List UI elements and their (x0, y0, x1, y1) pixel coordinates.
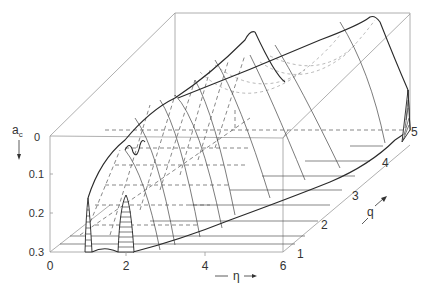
y-axis: 1 2 3 4 5 q (297, 125, 418, 261)
x-tick-4: 4 (202, 259, 209, 273)
z-tick-0.3: 0.3 (29, 246, 44, 258)
z-axis-arrow-icon (17, 154, 21, 160)
z-axis-label: ac (12, 123, 23, 139)
x-tick-6: 6 (280, 259, 287, 273)
y-tick-4: 4 (382, 156, 389, 170)
y-tick-1: 1 (297, 247, 304, 261)
y-axis-arrow-icon (381, 196, 387, 202)
y-tick-5: 5 (411, 125, 418, 139)
surface-plot: 0 0.1 0.2 0.3 ac 0 2 4 6 η 1 2 3 4 5 q (0, 0, 429, 290)
base-curve (92, 249, 118, 252)
hidden-lines (80, 20, 410, 235)
plot-canvas: 0 0.1 0.2 0.3 ac 0 2 4 6 η 1 2 3 4 5 q (0, 0, 429, 290)
z-axis: 0 0.1 0.2 0.3 ac (12, 123, 53, 258)
x-tick-0: 0 (47, 259, 54, 273)
x-axis: 0 2 4 6 η (47, 252, 287, 283)
x-axis-arrow-icon (252, 274, 257, 278)
y-tick-3: 3 (352, 189, 359, 203)
z-tick-0: 0 (34, 131, 40, 143)
floor-lines (60, 146, 383, 244)
x-axis-label: η (233, 269, 240, 283)
y-tick-2: 2 (321, 218, 328, 232)
z-tick-0.1: 0.1 (29, 168, 44, 180)
z-tick-0.2: 0.2 (29, 207, 44, 219)
y-axis-label: q (367, 205, 374, 219)
x-tick-2: 2 (123, 259, 130, 273)
tongue-eta2 (118, 195, 134, 252)
tongue-eta1 (85, 198, 92, 252)
bounding-box (50, 13, 410, 252)
tongue-q5 (402, 90, 410, 142)
surface-ribs (125, 22, 385, 250)
